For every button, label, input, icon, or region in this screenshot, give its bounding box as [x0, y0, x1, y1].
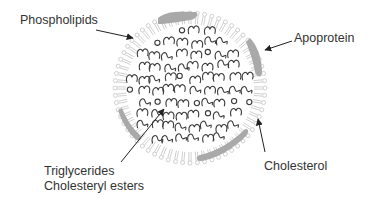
label-cholesteryl-esters: Cholesteryl esters — [44, 179, 144, 193]
label-cholesterol: Cholesterol — [264, 159, 327, 173]
label-phospholipids: Phospholipids — [20, 13, 98, 27]
arrow-cholesterol — [258, 119, 265, 152]
arrow-apoprotein — [265, 41, 292, 50]
label-apoprotein: Apoprotein — [294, 31, 354, 45]
arrow-triglycerides — [121, 109, 164, 162]
apoprotein-right — [246, 38, 262, 77]
phospholipid-shell — [113, 11, 267, 165]
apoprotein-bottom — [197, 129, 248, 161]
arrow-phospholipids — [96, 30, 133, 38]
core-lipids — [126, 26, 253, 143]
label-triglycerides: Triglycerides — [44, 164, 114, 178]
